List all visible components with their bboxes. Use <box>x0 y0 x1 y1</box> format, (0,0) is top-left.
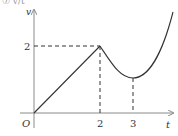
origin-label: O <box>22 118 30 129</box>
x-tick-3: 3 <box>130 118 136 129</box>
x-tick-2: 2 <box>97 118 103 129</box>
header-partial-text: ⑦ v/t <box>2 0 25 6</box>
curve-linear-segment <box>34 46 100 113</box>
y-axis-label: v <box>26 7 31 17</box>
x-axis-label: t <box>166 119 171 130</box>
curve-parabolic-segment <box>100 12 173 78</box>
y-tick-2: 2 <box>24 41 30 52</box>
velocity-time-graph: ⑦ v/t v 2 O 2 3 t <box>0 0 178 136</box>
